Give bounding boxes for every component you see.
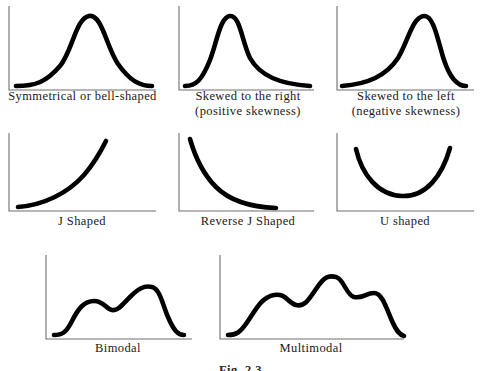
- multimodal-chart: [216, 255, 406, 345]
- caption-multimodal-line1: Multimodal: [279, 341, 342, 355]
- symmetrical-chart: [6, 4, 158, 96]
- panel-skewed-right: [176, 4, 316, 96]
- caption-bimodal: Bimodal: [42, 341, 194, 356]
- u-shaped-chart: [334, 131, 476, 217]
- reverse-j-curve: [190, 139, 276, 208]
- j-shaped-chart: [6, 131, 158, 217]
- caption-skewed-left: Skewed to the left (negative skewness): [331, 89, 481, 119]
- panel-symmetrical: [6, 4, 158, 96]
- caption-skewed-right-line1: Skewed to the right: [195, 89, 300, 103]
- u-curve: [356, 148, 450, 196]
- panel-skewed-left: [334, 4, 476, 96]
- skewed-right-chart: [176, 4, 316, 96]
- figure-caption: Fig. 2.3: [0, 363, 481, 371]
- caption-skewed-right-line2: (positive skewness): [173, 104, 323, 119]
- caption-reverse-j-shaped: Reverse J Shaped: [173, 214, 323, 229]
- panel-j-shaped: [6, 131, 158, 217]
- multimodal-curve: [228, 276, 404, 336]
- distribution-shapes-figure: Symmetrical or bell-shaped Skewed to the…: [0, 0, 481, 371]
- caption-j-shaped: J Shaped: [6, 214, 158, 229]
- caption-symmetrical-line1: Symmetrical or bell-shaped: [8, 89, 157, 103]
- caption-bimodal-line1: Bimodal: [95, 341, 141, 355]
- skewed-left-chart: [334, 4, 476, 96]
- caption-skewed-left-line1: Skewed to the left: [357, 89, 455, 103]
- j-curve: [18, 141, 106, 207]
- panel-bimodal: [42, 255, 194, 345]
- axis: [9, 133, 156, 211]
- caption-skewed-left-line2: (negative skewness): [331, 104, 481, 119]
- left-skew-curve: [342, 16, 466, 86]
- caption-multimodal: Multimodal: [216, 341, 406, 356]
- bimodal-curve: [54, 286, 184, 335]
- axis: [337, 133, 474, 211]
- bimodal-chart: [42, 255, 194, 345]
- caption-u-shaped: U shaped: [334, 214, 476, 229]
- caption-symmetrical: Symmetrical or bell-shaped: [0, 89, 165, 104]
- panel-reverse-j-shaped: [176, 131, 316, 217]
- caption-reverse-j-shaped-line1: Reverse J Shaped: [201, 214, 296, 228]
- caption-skewed-right: Skewed to the right (positive skewness): [173, 89, 323, 119]
- bell-curve: [16, 16, 152, 86]
- axis: [179, 133, 314, 211]
- caption-j-shaped-line1: J Shaped: [58, 214, 106, 228]
- panel-multimodal: [216, 255, 406, 345]
- panel-u-shaped: [334, 131, 476, 217]
- right-skew-curve: [185, 16, 310, 86]
- reverse-j-shaped-chart: [176, 131, 316, 217]
- caption-u-shaped-line1: U shaped: [380, 214, 430, 228]
